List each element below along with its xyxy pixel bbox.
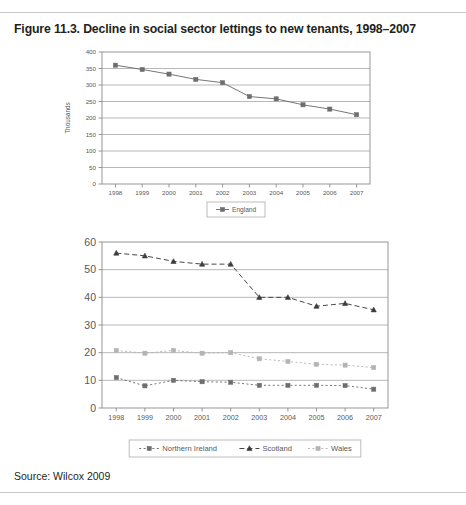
svg-text:0: 0 [93, 180, 97, 187]
svg-text:2007: 2007 [350, 189, 364, 196]
svg-text:0: 0 [90, 402, 96, 414]
nations-gridlines [102, 242, 388, 408]
england-line-chart: 050100150200250300350400 199819992000200… [58, 46, 388, 226]
svg-text:2003: 2003 [243, 189, 257, 196]
svg-text:200: 200 [86, 114, 97, 121]
svg-text:2004: 2004 [280, 413, 296, 422]
england-chart-svg: 050100150200250300350400 199819992000200… [58, 46, 388, 226]
svg-text:250: 250 [86, 98, 97, 105]
nations-line-chart: 0102030405060 19981999200020012002200320… [58, 236, 398, 468]
nations-series-group [114, 250, 377, 391]
top-divider [0, 12, 466, 13]
svg-text:20: 20 [84, 346, 96, 358]
svg-text:50: 50 [84, 263, 96, 275]
svg-text:2002: 2002 [223, 413, 239, 422]
england-y-axis-ticks: 050100150200250300350400 [86, 48, 102, 187]
source-note: Source: Wilcox 2009 [14, 470, 110, 482]
svg-text:England: England [232, 206, 257, 214]
svg-text:2004: 2004 [269, 189, 283, 196]
svg-text:60: 60 [84, 236, 96, 248]
nations-x-axis-ticks: 1998199920002001200220032004200520062007 [108, 408, 381, 422]
svg-text:30: 30 [84, 319, 96, 331]
svg-text:350: 350 [86, 65, 97, 72]
svg-text:1998: 1998 [109, 189, 123, 196]
svg-text:1999: 1999 [137, 413, 153, 422]
nations-legend: Northern IrelandScotlandWales [129, 440, 361, 457]
svg-text:1998: 1998 [108, 413, 124, 422]
nations-chart-svg: 0102030405060 19981999200020012002200320… [58, 236, 398, 468]
svg-text:Wales: Wales [331, 444, 352, 453]
svg-text:2007: 2007 [366, 413, 382, 422]
svg-text:2000: 2000 [162, 189, 176, 196]
svg-text:2005: 2005 [309, 413, 325, 422]
bottom-divider [0, 492, 466, 493]
svg-text:Scotland: Scotland [262, 444, 292, 453]
svg-text:2001: 2001 [189, 189, 203, 196]
svg-text:100: 100 [86, 147, 97, 154]
svg-text:400: 400 [86, 48, 97, 55]
figure-title: Figure 11.3. Decline in social sector le… [14, 22, 416, 36]
england-x-axis-ticks: 1998199920002001200220032004200520062007 [109, 184, 365, 196]
svg-text:Northern Ireland: Northern Ireland [162, 444, 217, 453]
svg-text:Thousands: Thousands [64, 102, 71, 134]
svg-text:10: 10 [84, 374, 96, 386]
england-y-axis-title: Thousands [64, 102, 71, 134]
svg-text:2006: 2006 [337, 413, 353, 422]
svg-text:50: 50 [89, 164, 96, 171]
figure-page: Figure 11.3. Decline in social sector le… [0, 0, 466, 505]
nations-y-axis-ticks: 0102030405060 [84, 236, 102, 414]
svg-text:40: 40 [84, 291, 96, 303]
england-legend: England [207, 202, 265, 217]
svg-text:2002: 2002 [216, 189, 230, 196]
svg-text:300: 300 [86, 81, 97, 88]
svg-text:2003: 2003 [251, 413, 267, 422]
svg-text:2006: 2006 [323, 189, 337, 196]
svg-text:2000: 2000 [166, 413, 182, 422]
england-series-group [113, 63, 358, 117]
svg-text:2001: 2001 [194, 413, 210, 422]
svg-text:150: 150 [86, 131, 97, 138]
svg-text:1999: 1999 [135, 189, 149, 196]
svg-text:2005: 2005 [296, 189, 310, 196]
